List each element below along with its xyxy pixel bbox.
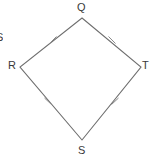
quadrilateral-qrst-svg bbox=[0, 0, 156, 161]
tick-mark-side-qr bbox=[50, 37, 57, 44]
cropped-edge-label: S bbox=[0, 32, 3, 43]
vertex-label-q: Q bbox=[77, 2, 86, 13]
quadrilateral-qrst-outline bbox=[20, 18, 141, 140]
vertex-label-t: T bbox=[142, 60, 149, 71]
tick-mark-side-rs bbox=[45, 98, 52, 105]
vertex-label-s: S bbox=[78, 145, 85, 156]
vertex-label-r: R bbox=[8, 60, 16, 71]
geometry-figure-screenshot: Q R T S S bbox=[0, 0, 156, 161]
